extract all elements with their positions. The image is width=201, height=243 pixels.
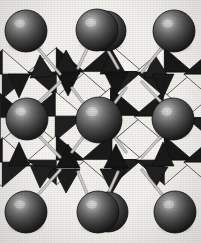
a-site-cation-sphere — [6, 98, 48, 141]
a-site-cation-sphere — [77, 191, 119, 234]
crystal-structure-canvas — [0, 0, 201, 243]
a-site-cation-sphere — [152, 98, 194, 141]
a-site-sphere-layer — [5, 9, 196, 234]
a-site-cation-sphere — [154, 191, 196, 234]
a-site-cation-sphere — [76, 9, 118, 52]
a-site-cation-sphere — [5, 191, 47, 234]
a-site-cation-sphere — [5, 10, 47, 53]
crystal-structure-figure: Perovskite-type crystal structure drawn … — [0, 0, 201, 243]
a-site-cation-sphere — [76, 97, 122, 144]
a-site-cation-sphere — [153, 10, 195, 53]
